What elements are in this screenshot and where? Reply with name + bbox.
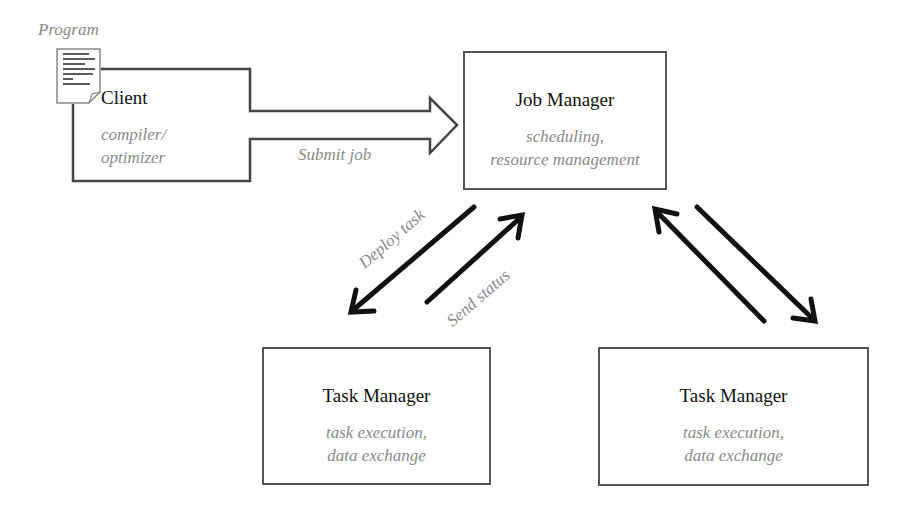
program-document-icon bbox=[56, 48, 101, 104]
task-manager-1-title: Task Manager bbox=[264, 385, 489, 407]
job-manager-subtitle-1: scheduling, bbox=[465, 125, 665, 148]
job-manager-subtitle-2: resource management bbox=[465, 148, 665, 171]
task-manager-2-subtitle-1: task execution, bbox=[600, 421, 867, 444]
task-manager-node-1: Task Manager task execution, data exchan… bbox=[262, 347, 491, 485]
task-manager-1-subtitle-1: task execution, bbox=[264, 421, 489, 444]
deploy-arrow-right bbox=[697, 207, 815, 321]
job-manager-title: Job Manager bbox=[465, 89, 665, 111]
client-title: Client bbox=[101, 87, 250, 109]
client-subtitle-1: compiler/ bbox=[101, 123, 250, 146]
job-manager-node: Job Manager scheduling, resource managem… bbox=[463, 51, 667, 190]
task-manager-2-subtitle-2: data exchange bbox=[600, 444, 867, 467]
status-arrow-right bbox=[655, 209, 764, 321]
task-manager-2-title: Task Manager bbox=[600, 385, 867, 407]
task-manager-1-subtitle-2: data exchange bbox=[264, 444, 489, 467]
task-manager-node-2: Task Manager task execution, data exchan… bbox=[598, 347, 869, 486]
client-node: Client compiler/ optimizer bbox=[101, 69, 250, 181]
submit-job-label: Submit job bbox=[298, 145, 371, 165]
program-label: Program bbox=[38, 20, 99, 40]
client-subtitle-2: optimizer bbox=[101, 146, 250, 169]
